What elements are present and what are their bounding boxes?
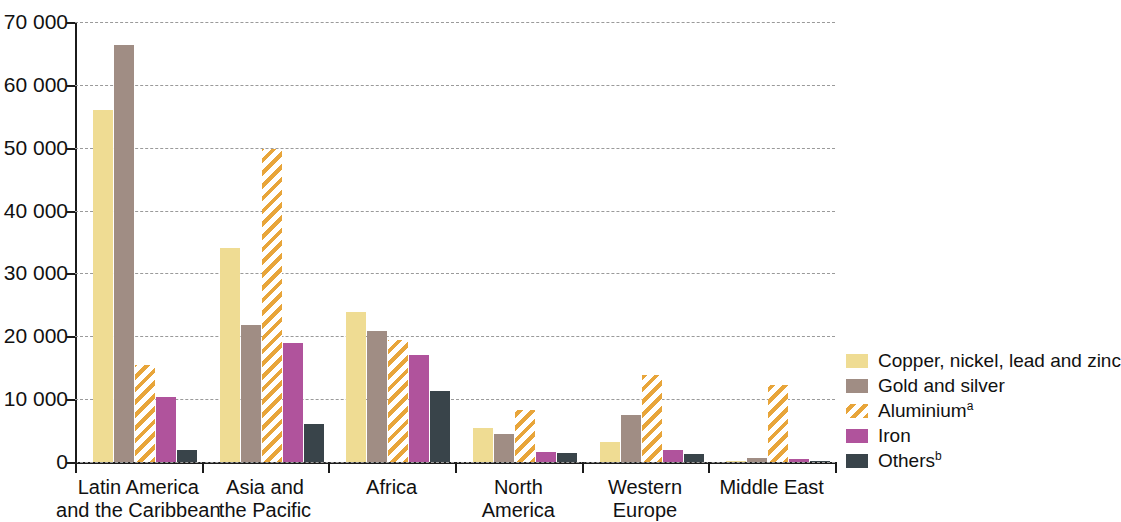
bar — [262, 149, 282, 462]
x-axis-group-tick — [455, 462, 457, 473]
legend-swatch — [846, 454, 868, 468]
bar — [642, 375, 662, 462]
bar-group — [600, 22, 707, 462]
bar — [536, 452, 556, 462]
y-axis-tick-mark — [66, 22, 75, 24]
legend-swatch — [846, 404, 868, 418]
bar — [663, 450, 683, 462]
bar — [747, 458, 767, 462]
bar-group — [93, 22, 200, 462]
x-axis-group-tick — [328, 462, 330, 473]
x-axis-group-tick — [708, 462, 710, 473]
legend-label: Copper, nickel, lead and zinc — [878, 350, 1121, 372]
y-axis-tick-mark — [66, 462, 75, 464]
x-axis-category-label: Middle East — [686, 476, 857, 499]
bar — [430, 391, 450, 462]
x-axis-group-tick — [75, 462, 77, 473]
x-axis-group-tick — [582, 462, 584, 473]
bar — [114, 45, 134, 462]
x-axis-group-tick — [202, 462, 204, 473]
bar — [388, 340, 408, 462]
bar-group — [220, 22, 327, 462]
y-axis-tick-labels: 010 00020 00030 00040 00050 00060 00070 … — [0, 22, 68, 463]
y-axis-tick-label: 70 000 — [4, 10, 68, 34]
y-axis-tick-mark — [66, 211, 75, 213]
legend-label: Othersb — [878, 449, 942, 472]
bar — [93, 110, 113, 462]
y-axis-tick-label: 40 000 — [4, 199, 68, 223]
bar — [156, 397, 176, 462]
bar — [473, 428, 493, 462]
bar — [304, 424, 324, 462]
y-axis-tick-mark — [66, 148, 75, 150]
legend-footnote-marker: a — [967, 399, 974, 413]
y-axis-tick-label: 10 000 — [4, 387, 68, 411]
bar — [494, 434, 514, 462]
legend-item: Othersb — [846, 450, 1121, 471]
legend-swatch — [846, 354, 868, 368]
y-axis-tick-mark — [66, 336, 75, 338]
y-axis-tick-mark — [66, 85, 75, 87]
plot-area — [75, 22, 835, 462]
legend-item: Iron — [846, 425, 1121, 446]
bar — [367, 331, 387, 462]
bar — [241, 325, 261, 462]
legend-swatch — [846, 429, 868, 443]
legend-item: Copper, nickel, lead and zinc — [846, 350, 1121, 371]
bar — [789, 459, 809, 462]
legend-footnote-marker: b — [935, 449, 942, 463]
legend-label: Gold and silver — [878, 375, 1005, 397]
legend-item: Gold and silver — [846, 375, 1121, 396]
bar — [557, 453, 577, 462]
bar — [810, 461, 830, 463]
bar-group — [726, 22, 833, 462]
x-axis-group-tick — [835, 462, 837, 473]
legend-item: Aluminiuma — [846, 400, 1121, 421]
bar — [726, 461, 746, 463]
bar — [177, 450, 197, 462]
bar — [283, 343, 303, 462]
legend: Copper, nickel, lead and zincGold and si… — [846, 350, 1121, 475]
bar — [346, 312, 366, 462]
bar — [409, 355, 429, 462]
legend-label: Aluminiuma — [878, 399, 973, 422]
y-axis-tick-label: 60 000 — [4, 73, 68, 97]
bar — [515, 410, 535, 462]
y-axis-tick-label: 30 000 — [4, 261, 68, 285]
bar — [220, 248, 240, 462]
bar — [600, 442, 620, 462]
y-axis-tick-mark — [66, 273, 75, 275]
y-axis-tick-label: 50 000 — [4, 136, 68, 160]
legend-swatch — [846, 379, 868, 393]
bar-group — [473, 22, 580, 462]
bar — [621, 415, 641, 462]
y-axis-tick-label: 20 000 — [4, 324, 68, 348]
y-axis-tick-mark — [66, 399, 75, 401]
bar-group — [346, 22, 453, 462]
legend-label: Iron — [878, 425, 911, 447]
bar — [684, 454, 704, 462]
bar — [135, 365, 155, 462]
bar — [768, 385, 788, 462]
